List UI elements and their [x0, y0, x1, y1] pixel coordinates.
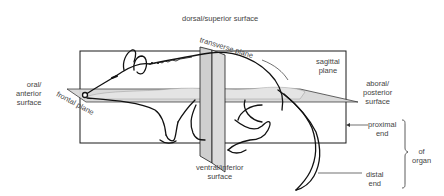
oral-label-line2: anterior — [16, 89, 41, 98]
aboral-label-line2: posterior — [363, 88, 392, 97]
oral-label-line3: surface — [16, 98, 41, 107]
proximal-label-line2: end — [368, 129, 396, 138]
proximal-arrow-icon — [346, 123, 350, 127]
oral-label-line1: oral/ — [16, 80, 41, 89]
ventral-label-line1: ventral/inferior — [196, 163, 244, 172]
sagittal-label-line2: plane — [316, 66, 340, 75]
sagittal-label-line1: sagittal — [316, 57, 340, 66]
transverse-plane-front — [212, 50, 225, 172]
ventral-label: ventral/inferior surface — [196, 163, 244, 181]
aboral-label: aboral/ posterior surface — [363, 79, 392, 106]
sagittal-label: sagittal plane — [316, 57, 340, 75]
proximal-label: proximal end — [368, 120, 396, 138]
organ-bracket — [402, 120, 408, 188]
organ-label-line2: organ — [412, 156, 431, 165]
oral-label: oral/ anterior surface — [16, 80, 41, 107]
organ-label: of organ — [412, 147, 431, 165]
aboral-label-line3: surface — [363, 97, 392, 106]
organ-label-line1: of — [412, 147, 431, 156]
ventral-label-line2: surface — [196, 172, 244, 181]
transverse-plane — [200, 47, 212, 163]
dorsal-label: dorsal/superior surface — [182, 14, 258, 23]
proximal-label-line1: proximal — [368, 120, 396, 129]
distal-label: distal end — [366, 170, 384, 188]
distal-label-line1: distal — [366, 170, 384, 179]
aboral-label-line1: aboral/ — [363, 79, 392, 88]
distal-label-line2: end — [366, 179, 384, 188]
